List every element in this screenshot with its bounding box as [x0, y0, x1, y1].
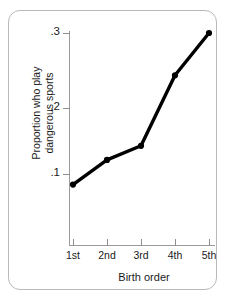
line-chart: .3 .2 .1 1st 2nd 3rd 4th 5th Birth order…	[0, 0, 235, 306]
data-point-2nd	[104, 157, 110, 163]
data-point-5th	[206, 30, 212, 36]
data-line	[73, 33, 209, 185]
data-point-1st	[70, 181, 76, 187]
data-point-4th	[172, 72, 178, 78]
data-point-3rd	[138, 143, 144, 149]
data-series-layer	[0, 0, 235, 306]
